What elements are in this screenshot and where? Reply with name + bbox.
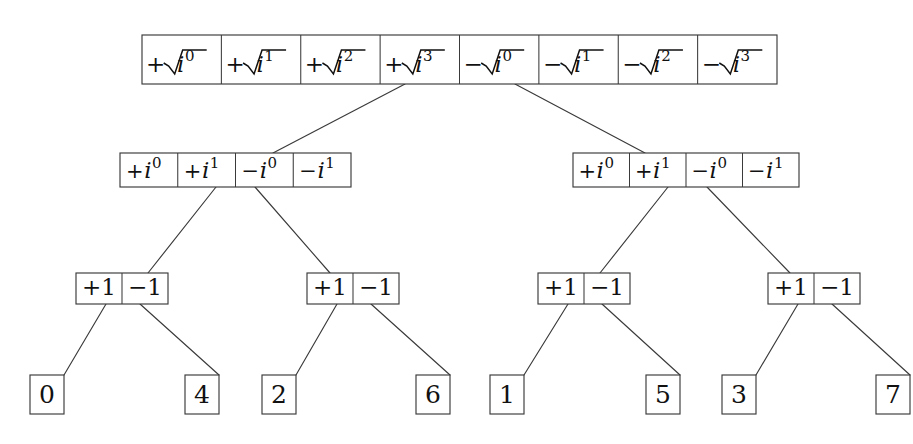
cell-label: +1 [82,274,116,300]
cell-label: −1 [128,274,162,300]
cell-content: +1 [82,274,116,300]
exponent-glyph: 1 [661,154,671,172]
base-glyph: i [710,157,717,183]
tree-edge [707,187,790,273]
leaf-label: 2 [271,380,287,409]
cell-label: +1 [544,274,578,300]
cell-label: +1 [774,274,808,300]
third-level-node: +1−1 [768,273,860,304]
leaf-label: 1 [499,380,515,409]
tree-edge [832,304,910,375]
tree-edge [524,304,568,375]
cell-content: +1 [544,274,578,300]
exponent-glyph: 0 [717,154,727,172]
base-glyph: i [144,157,151,183]
sign-glyph: − [242,159,260,183]
exponent-glyph: 1 [264,47,274,65]
exponent-glyph: 0 [604,154,614,172]
base-glyph: i [733,51,740,77]
tree-edge [255,187,330,273]
sign-glyph: − [622,51,641,77]
cell-content: −1 [359,274,393,300]
tree-edge [148,187,216,273]
cell-content: −1 [128,274,162,300]
cell-label: −1 [820,274,854,300]
sign-glyph: + [635,159,653,183]
sign-glyph: + [384,51,403,77]
sign-glyph: − [464,51,483,77]
cell-label: +1 [313,274,347,300]
second-level-node: +i0+i1−i0−i1 [573,153,799,187]
leaf-node: 5 [646,375,680,414]
sign-glyph: + [184,159,202,183]
nodes-layer: +i0+i1+i2+i3−i0−i1−i2−i3+i0+i1−i0−i1+i0+… [30,35,910,414]
leaf-label: 4 [194,380,210,409]
leaf-node: 0 [30,375,64,414]
sign-glyph: − [299,159,317,183]
tree-edge [515,84,645,153]
sign-glyph: + [578,159,596,183]
base-glyph: i [336,51,343,77]
base-glyph: i [574,51,581,77]
exponent-glyph: 2 [344,47,354,65]
exponent-glyph: 1 [582,47,592,65]
sign-glyph: + [146,51,165,77]
base-glyph: i [177,51,184,77]
leaf-node: 7 [876,375,910,414]
tree-edge [602,304,680,375]
sign-glyph: + [225,51,244,77]
leaf-label: 5 [655,380,671,409]
leaf-node: 6 [416,375,450,414]
cell-label: −1 [359,274,393,300]
tree-edge [756,304,798,375]
third-level-node: +1−1 [538,273,630,304]
base-glyph: i [415,51,422,77]
leaf-label: 0 [39,380,55,409]
exponent-glyph: 0 [152,154,162,172]
sign-glyph: − [543,51,562,77]
exponent-glyph: 3 [423,47,433,65]
tree-edge [371,304,450,375]
edges-layer [64,84,910,375]
leaf-label: 3 [731,380,747,409]
base-glyph: i [653,157,660,183]
third-level-node: +1−1 [76,273,168,304]
exponent-glyph: 0 [185,47,195,65]
tree-edge [140,304,219,375]
exponent-glyph: 1 [325,154,335,172]
diagram-canvas: +i0+i1+i2+i3−i0−i1−i2−i3+i0+i1−i0−i1+i0+… [0,0,913,444]
second-level-node: +i0+i1−i0−i1 [120,153,351,187]
sign-glyph: + [126,159,144,183]
cell-content: −1 [820,274,854,300]
splitting-tree-diagram: +i0+i1+i2+i3−i0−i1−i2−i3+i0+i1−i0−i1+i0+… [0,0,913,444]
base-glyph: i [202,157,209,183]
base-glyph: i [495,51,502,77]
leaf-node: 2 [262,375,296,414]
cell-label: −1 [590,274,624,300]
base-glyph: i [597,157,604,183]
leaf-label: 7 [885,380,901,409]
tree-edge [296,304,337,375]
base-glyph: i [317,157,324,183]
base-glyph: i [766,157,773,183]
leaf-node: 3 [722,375,756,414]
tree-edge [600,187,668,273]
cell-content: +1 [774,274,808,300]
sign-glyph: − [702,51,721,77]
base-glyph: i [260,157,267,183]
sign-glyph: + [305,51,324,77]
base-glyph: i [256,51,263,77]
leaf-label: 6 [425,380,441,409]
third-level-node: +1−1 [307,273,399,304]
tree-edge [64,304,106,375]
base-glyph: i [653,51,660,77]
cell-content: +1 [313,274,347,300]
exponent-glyph: 3 [741,47,751,65]
root-node: +i0+i1+i2+i3−i0−i1−i2−i3 [142,35,777,84]
leaf-node: 4 [185,375,219,414]
cell-content: −1 [590,274,624,300]
exponent-glyph: 0 [502,47,512,65]
sign-glyph: − [748,159,766,183]
exponent-glyph: 1 [210,154,220,172]
tree-edge [273,84,405,153]
